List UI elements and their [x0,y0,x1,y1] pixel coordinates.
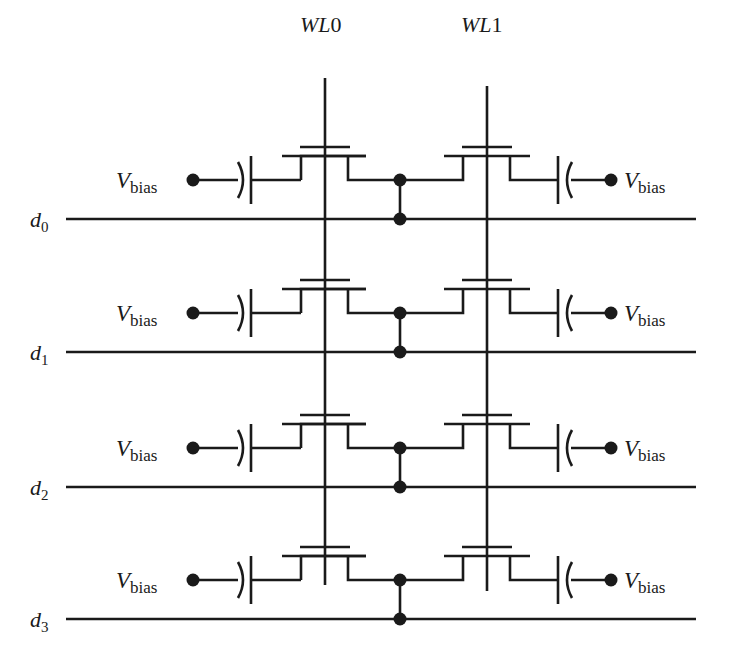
junction-dot-bitline [394,213,407,226]
transistor-wl0-drain [348,556,400,580]
vbias-label-right: Vbias [624,168,665,197]
bias-subscript: bias [130,578,157,597]
memory-row-1: VbiasVbias [116,280,665,359]
bias-subscript: bias [130,178,157,197]
bias-terminal-right [605,307,618,320]
bit-line-index: 0 [41,219,49,235]
bit-line-label-d0: d0 [30,207,49,235]
transistor-wl1-drain [510,556,558,580]
bias-subscript: bias [638,578,665,597]
vbias-label-left: Vbias [116,568,157,597]
transistor-wl1-drain [510,289,558,313]
bias-subscript: bias [638,178,665,197]
bias-subscript: bias [130,311,157,330]
vbias-label-left: Vbias [116,168,157,197]
transistor-wl0-source [301,289,366,313]
transistor-wl0-drain [348,156,400,180]
vbias-label-left: Vbias [116,301,157,330]
transistor-wl1-drain [510,424,558,448]
transistor-wl1-source [400,556,463,580]
transistor-wl1-source [400,424,463,448]
transistor-wl0-drain [348,289,400,313]
junction-dot-bitline [394,481,407,494]
transistor-wl0-source [301,156,366,180]
junction-dot-bitline [394,346,407,359]
word-line-label-wl0: WL0 [300,12,342,37]
bit-line-index: 2 [41,487,49,503]
transistor-wl1-source [400,156,463,180]
bias-subscript: bias [130,446,157,465]
transistor-wl0-source [301,424,366,448]
bias-terminal-right [605,574,618,587]
memory-row-0: VbiasVbias [116,147,665,226]
circuit-diagram: WL0 WL1 d0d1d2d3 VbiasVbiasVbiasVbiasVbi… [0,0,733,660]
transistor-wl0-drain [348,424,400,448]
bit-line-label-d3: d3 [30,607,49,635]
capacitor-left-curved-plate [238,162,243,198]
transistor-wl1-drain [510,156,558,180]
bias-subscript: bias [638,446,665,465]
memory-row-2: VbiasVbias [116,415,665,494]
transistor-wl1-source [400,289,463,313]
bias-terminal-right [605,174,618,187]
word-line-label-wl1: WL1 [461,12,503,37]
bit-line-index: 3 [41,619,49,635]
bias-terminal-right [605,442,618,455]
capacitor-left-curved-plate [238,295,243,331]
bit-line-index: 1 [41,352,49,368]
transistor-wl0-source [301,556,366,580]
memory-row-3: VbiasVbias [116,547,665,626]
circuit-schematic: WL0 WL1 d0d1d2d3 VbiasVbiasVbiasVbiasVbi… [0,0,733,660]
bit-line-label-d2: d2 [30,475,49,503]
vbias-label-left: Vbias [116,436,157,465]
vbias-label-right: Vbias [624,301,665,330]
bit-line-label-d1: d1 [30,340,49,368]
vbias-label-right: Vbias [624,436,665,465]
vbias-label-right: Vbias [624,568,665,597]
junction-dot-bitline [394,613,407,626]
bias-subscript: bias [638,311,665,330]
capacitor-left-curved-plate [238,430,243,466]
capacitor-left-curved-plate [238,562,243,598]
